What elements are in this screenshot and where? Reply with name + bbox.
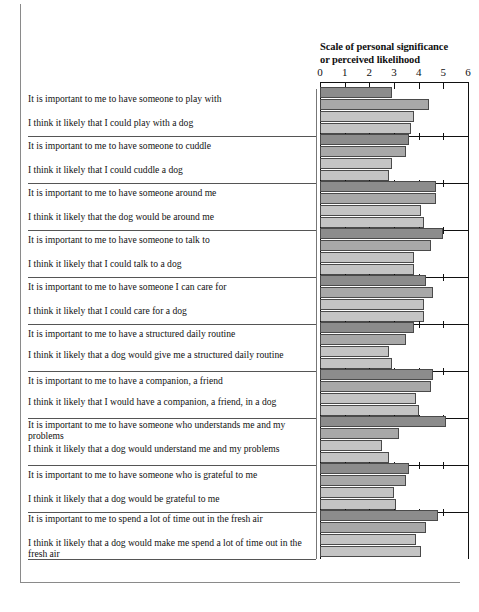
group-tick-mark — [419, 133, 420, 140]
statement-label: It is important to me to have someone to… — [28, 234, 314, 245]
bar — [320, 158, 392, 169]
axis-title: Scale of personal significance or percei… — [320, 41, 479, 66]
statement-label: I think it likely that I could play with… — [28, 117, 314, 128]
bar — [320, 134, 409, 145]
bar — [320, 299, 424, 310]
statement-label: I think it likely that the dog would be … — [28, 211, 314, 222]
bar — [320, 510, 438, 521]
bar — [320, 287, 433, 298]
statement-label: I think it likely that I could cuddle a … — [28, 164, 314, 175]
statement-label: It is important to me to have someone I … — [28, 281, 314, 292]
bar — [320, 463, 409, 474]
page-rule-bottom — [20, 582, 460, 583]
bar — [320, 311, 424, 322]
group-tick-mark — [468, 462, 469, 469]
statement-label: I think it likely that a dog would be gr… — [28, 493, 314, 504]
bar — [320, 416, 446, 427]
bar — [320, 146, 406, 157]
bar — [320, 452, 389, 463]
bar — [320, 369, 433, 380]
bar — [320, 546, 421, 557]
statement-label: It is important to me to have someone to… — [28, 93, 314, 104]
x-tick-mark — [468, 82, 469, 89]
statement-pair-rule — [28, 136, 316, 137]
group-tick-mark — [468, 415, 469, 422]
statement-label: I think it likely that a dog would make … — [28, 537, 314, 559]
statement-pair-rule — [28, 371, 316, 372]
group-tick-mark — [419, 462, 420, 469]
statement-pair-rule — [28, 277, 316, 278]
group-tick-mark — [443, 227, 444, 234]
bar — [320, 534, 416, 545]
label-table-right-rule — [316, 89, 317, 559]
group-tick-mark — [468, 321, 469, 328]
bar — [320, 475, 406, 486]
x-tick-label-5: 5 — [441, 66, 447, 78]
group-tick-mark — [468, 133, 469, 140]
statement-label: I think it likely that a dog would under… — [28, 443, 314, 454]
bar — [320, 252, 414, 263]
bar — [320, 428, 399, 439]
x-tick-mark — [443, 82, 444, 89]
x-tick-label-1: 1 — [342, 66, 348, 78]
bar — [320, 358, 392, 369]
group-tick-mark — [468, 274, 469, 281]
bar — [320, 193, 436, 204]
bar — [320, 240, 431, 251]
bar — [320, 205, 421, 216]
group-tick-mark — [468, 180, 469, 187]
bar — [320, 346, 389, 357]
axis-title-line-1: Scale of personal significance — [320, 41, 479, 54]
x-axis-tick-labels: 0123456 — [314, 66, 479, 80]
group-tick-mark — [419, 321, 420, 328]
x-tick-label-0: 0 — [317, 66, 323, 78]
group-tick-mark — [443, 509, 444, 516]
statement-label: It is important to me to have someone wh… — [28, 419, 314, 441]
statement-pair-rule — [28, 183, 316, 184]
statement-label: It is important to me to have someone to… — [28, 140, 314, 151]
x-tick-mark — [394, 82, 395, 89]
bar — [320, 217, 424, 228]
group-tick-mark — [443, 133, 444, 140]
bar — [320, 170, 389, 181]
x-tick-label-2: 2 — [367, 66, 373, 78]
statement-pair-rule — [28, 465, 316, 466]
statement-label: It is important to me to have someone ar… — [28, 187, 314, 198]
statement-label: I think it likely that I would have a co… — [28, 396, 314, 407]
bar — [320, 522, 426, 533]
statement-label: It is important to me to have a structur… — [28, 328, 314, 339]
statement-label: It is important to me to have a companio… — [28, 375, 314, 386]
bar — [320, 87, 392, 98]
x-tick-mark — [419, 82, 420, 89]
axis-title-line-2: or perceived likelihood — [320, 54, 479, 67]
x-tick-label-3: 3 — [391, 66, 397, 78]
group-tick-mark — [468, 509, 469, 516]
x-tick-label-4: 4 — [416, 66, 422, 78]
statement-label: I think it likely that a dog would give … — [28, 349, 314, 360]
bar — [320, 181, 436, 192]
bar — [320, 499, 396, 510]
group-tick-mark — [468, 368, 469, 375]
statement-label: I think it likely that I could talk to a… — [28, 258, 314, 269]
bars-plot-area — [320, 89, 468, 559]
group-tick-mark — [443, 321, 444, 328]
statement-label-column: It is important to me to have someone to… — [28, 89, 316, 559]
page-rule-left — [20, 4, 21, 582]
bar — [320, 487, 394, 498]
x-tick-label-6: 6 — [465, 66, 471, 78]
statement-pair-rule — [28, 559, 316, 560]
statement-label: I think it likely that I could care for … — [28, 305, 314, 316]
bar — [320, 381, 431, 392]
group-tick-mark — [443, 180, 444, 187]
bar — [320, 99, 429, 110]
statement-pair-rule — [28, 324, 316, 325]
bar — [320, 440, 382, 451]
bar — [320, 334, 406, 345]
bar — [320, 123, 411, 134]
bar — [320, 393, 416, 404]
group-tick-mark — [443, 462, 444, 469]
bar — [320, 228, 443, 239]
statement-pair-rule — [28, 230, 316, 231]
group-tick-mark — [468, 227, 469, 234]
bar — [320, 275, 426, 286]
